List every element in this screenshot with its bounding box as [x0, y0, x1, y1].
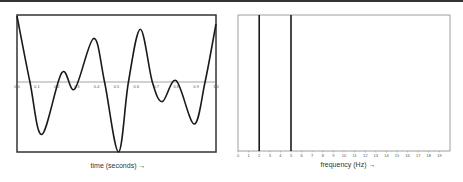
time-tick-label: 0.0	[14, 84, 20, 89]
time-tick-label: 1.0	[213, 84, 219, 89]
charts-canvas: 0.00.10.20.30.40.50.60.70.80.91.0 time (…	[0, 0, 463, 182]
frequency-axis-title: frequency (Hz) →	[321, 161, 376, 169]
frequency-tick-label: 18	[427, 153, 432, 158]
frequency-tick-label: 3	[269, 153, 272, 158]
time-tick-label: 0.4	[94, 84, 100, 89]
time-tick-label: 0.9	[193, 84, 199, 89]
time-axis-title: time (seconds) →	[91, 162, 146, 170]
frequency-tick-label: 10	[342, 153, 347, 158]
time-tick-label: 0.1	[34, 84, 40, 89]
frequency-chart-frame	[238, 15, 450, 151]
frequency-tick-label: 11	[353, 153, 358, 158]
spectrum-lines	[259, 15, 291, 151]
frequency-tick-label: 0	[237, 153, 240, 158]
frequency-tick-label: 9	[332, 153, 335, 158]
time-tick-label: 0.6	[134, 84, 140, 89]
frequency-tick-label: 8	[322, 153, 325, 158]
frequency-tick-label: 16	[405, 153, 410, 158]
frequency-tick-label: 1	[247, 153, 250, 158]
frequency-tick-label: 7	[311, 153, 314, 158]
frequency-tick-label: 2	[258, 153, 261, 158]
frequency-tick-label: 19	[437, 153, 442, 158]
frequency-tick-label: 6	[300, 153, 303, 158]
time-domain-chart: 0.00.10.20.30.40.50.60.70.80.91.0 time (…	[14, 15, 219, 170]
frequency-tick-label: 4	[279, 153, 282, 158]
frequency-tick-label: 14	[384, 153, 389, 158]
frequency-tick-label: 13	[374, 153, 379, 158]
frequency-tick-label: 15	[395, 153, 400, 158]
time-tick-labels: 0.00.10.20.30.40.50.60.70.80.91.0	[14, 84, 219, 89]
frequency-tick-labels: 012345678910111213141516171819	[237, 151, 443, 158]
frequency-tick-label: 5	[290, 153, 293, 158]
frequency-tick-label: 12	[363, 153, 368, 158]
time-tick-label: 0.5	[114, 84, 120, 89]
frequency-tick-label: 17	[416, 153, 421, 158]
frequency-domain-chart: 012345678910111213141516171819 frequency…	[237, 15, 450, 169]
